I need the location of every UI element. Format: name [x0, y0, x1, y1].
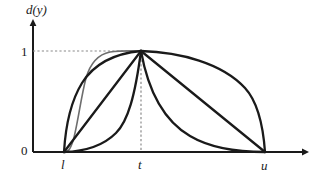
- y-axis-arrowhead-icon: [30, 19, 37, 26]
- ascending-curves-group: [64, 51, 141, 152]
- y-tick-label-one: 1: [21, 45, 28, 58]
- descending-curves-group: [141, 51, 265, 152]
- axes-group: [30, 19, 309, 156]
- x-tick-label-l: l: [61, 158, 65, 171]
- figure-container: d(y) 1 0 l t u: [0, 0, 316, 183]
- x-tick-label-u: u: [261, 159, 268, 172]
- x-axis-arrowhead-icon: [302, 149, 309, 156]
- plot-canvas: [0, 0, 316, 183]
- curve-descending-linear: [141, 51, 265, 152]
- y-tick-label-zero: 0: [21, 144, 28, 157]
- x-tick-label-t: t: [138, 158, 142, 171]
- y-axis-label: d(y): [26, 3, 47, 16]
- guide-lines-group: [33, 51, 141, 152]
- curve-ascending-linear: [64, 51, 141, 152]
